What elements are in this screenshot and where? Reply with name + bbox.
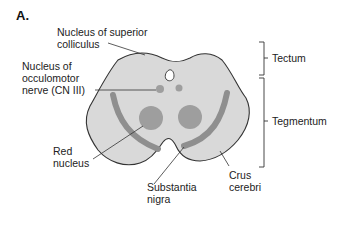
label-line: cerebri bbox=[229, 181, 261, 193]
label-substantia-nigra: Substantia nigra bbox=[147, 181, 197, 205]
label-red-nucleus: Red nucleus bbox=[53, 145, 89, 169]
label-tegmentum: Tegmentum bbox=[272, 115, 327, 127]
label-line: nerve (CN III) bbox=[22, 84, 85, 96]
label-line: nucleus bbox=[53, 157, 89, 169]
leader-crus-cerebri bbox=[220, 151, 229, 166]
label-line: colliculus bbox=[57, 38, 147, 50]
red-nucleus-right bbox=[178, 105, 202, 129]
label-line: Crus bbox=[229, 169, 261, 181]
label-oculomotor-nucleus: Nucleus of occulomotor nerve (CN III) bbox=[22, 60, 85, 96]
tegmentum-bracket bbox=[259, 78, 268, 167]
oculomotor-nucleus-right bbox=[176, 85, 183, 92]
label-line: nigra bbox=[147, 193, 197, 205]
oculomotor-nucleus-left bbox=[156, 85, 164, 93]
label-superior-colliculus: Nucleus of superior colliculus bbox=[57, 26, 147, 50]
cerebral-aqueduct bbox=[165, 70, 174, 81]
leader-substantia-nigra bbox=[154, 147, 184, 184]
label-line: Red bbox=[53, 145, 89, 157]
label-line: Nucleus of superior bbox=[57, 26, 147, 38]
label-line: Nucleus of bbox=[22, 60, 85, 72]
label-line: occulomotor bbox=[22, 72, 85, 84]
label-line: Substantia bbox=[147, 181, 197, 193]
label-tectum: Tectum bbox=[272, 52, 306, 64]
tectum-bracket bbox=[259, 42, 268, 75]
label-crus-cerebri: Crus cerebri bbox=[229, 169, 261, 193]
